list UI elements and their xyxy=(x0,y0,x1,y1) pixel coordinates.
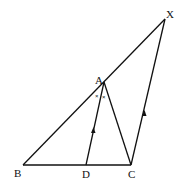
label-B: B xyxy=(14,167,21,179)
label-D: D xyxy=(82,168,90,180)
label-C: C xyxy=(128,168,135,180)
label-X: X xyxy=(166,8,174,20)
segment-CX xyxy=(131,19,165,165)
angle-mark-left: × xyxy=(95,93,99,99)
geometry-diagram: × × X A B D C xyxy=(0,0,182,193)
segment-BX xyxy=(23,19,165,165)
angle-mark-right: × xyxy=(102,94,106,100)
parallel-arrow-icon xyxy=(91,127,96,133)
segment-AC xyxy=(104,82,131,165)
label-A: A xyxy=(95,74,103,86)
